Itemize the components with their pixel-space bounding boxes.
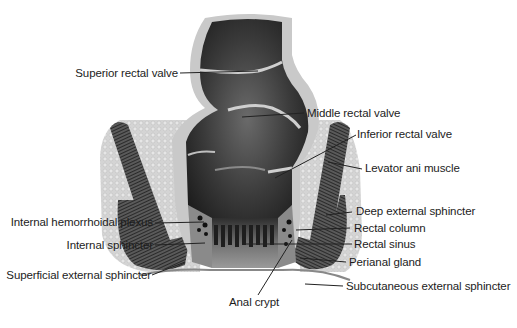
label-rectal-column: Rectal column [354,222,426,235]
label-levator-ani-muscle: Levator ani muscle [365,162,460,175]
label-subcutaneous-external-sphincter: Subcutaneous external sphincter [346,280,510,293]
label-perianal-gland: Perianal gland [349,256,421,269]
label-deep-external-sphincter: Deep external sphincter [356,205,475,218]
anatomy-figure: Superior rectal valve Middle rectal valv… [0,0,517,328]
label-superior-rectal-valve: Superior rectal valve [40,67,178,80]
label-internal-sphincter: Internal sphincter [0,239,153,252]
perianal-skin [140,270,350,280]
label-internal-hemorrhoidal-plexus: Internal hemorrhoidal plexus [0,216,153,229]
label-anal-crypt: Anal crypt [229,296,279,309]
label-rectal-sinus: Rectal sinus [354,238,415,251]
label-superficial-external-sphincter: Superficial external sphincter [0,269,151,282]
label-middle-rectal-valve: Middle rectal valve [307,107,400,120]
label-inferior-rectal-valve: Inferior rectal valve [357,128,452,141]
